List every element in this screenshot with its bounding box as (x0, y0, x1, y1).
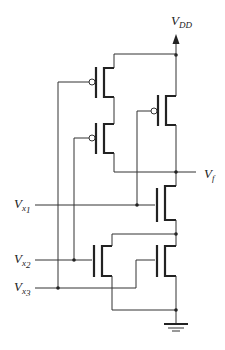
nmos-n1 (157, 186, 176, 222)
cmos-schematic: VDD Vf (0, 0, 225, 350)
p3-inversion-bubble-icon (151, 108, 157, 114)
input-x1: Vx1 (14, 111, 155, 215)
nmos-n3 (157, 245, 176, 277)
vx1-label: Vx1 (14, 196, 30, 215)
mid-wire (112, 234, 176, 246)
vx3-label: Vx3 (14, 279, 31, 298)
p2-drain-wire (114, 153, 176, 172)
vdd-arrow-icon (173, 34, 180, 44)
vdd-label: VDD (171, 13, 192, 30)
ground-icon (164, 324, 188, 331)
vf-label: Vf (204, 166, 216, 183)
pmos-p1 (58, 54, 114, 98)
pmos-p3 (137, 95, 176, 126)
vx2-label: Vx2 (14, 251, 31, 270)
p1-inversion-bubble-icon (89, 79, 95, 85)
input-x3: Vx3 (14, 82, 155, 298)
pmos-p2 (74, 123, 114, 154)
output-node: Vf (174, 166, 216, 183)
p2-inversion-bubble-icon (89, 135, 95, 141)
ground-node (174, 308, 178, 312)
nmos-n2 (94, 245, 112, 277)
vdd-supply: VDD (171, 13, 192, 57)
